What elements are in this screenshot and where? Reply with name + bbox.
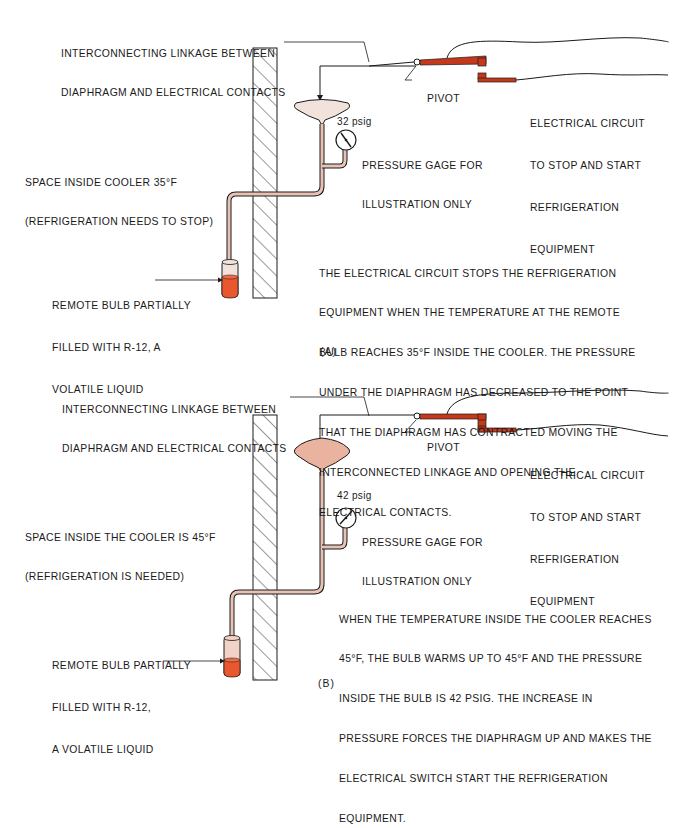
description-line: ELECTRICAL SWITCH START THE REFRIGERATIO…	[339, 772, 652, 785]
gauge-reading-a: 32 psig	[337, 115, 372, 128]
circuit-label-line: TO STOP AND START	[530, 159, 645, 173]
space-label-line: SPACE INSIDE COOLER 35°F	[25, 176, 213, 189]
space-label-line: SPACE INSIDE THE COOLER IS 45°F	[25, 531, 216, 544]
space-label-line: (REFRIGERATION IS NEEDED)	[25, 570, 216, 583]
circuit-label-line: ELECTRICAL CIRCUIT	[530, 117, 645, 131]
circuit-label-line: REFRIGERATION	[530, 553, 645, 567]
linkage-label-line: DIAPHRAGM AND ELECTRICAL CONTACTS	[62, 442, 287, 455]
description-line: INSIDE THE BULB IS 42 psig. THE INCREASE…	[339, 692, 652, 705]
space-label-a: SPACE INSIDE COOLER 35°F (REFRIGERATION …	[25, 150, 213, 241]
circuit-wire-a-bottom	[516, 74, 668, 80]
pivot-label-b: PIVOT	[427, 441, 460, 454]
bulb-label-line: A VOLATILE LIQUID	[52, 743, 191, 757]
linkage-label-line: INTERCONNECTING LINKAGE BETWEEN	[61, 47, 286, 60]
description-line: UNDER THE DIAPHRAGM HAS DECREASED TO THE…	[319, 386, 636, 399]
caption-b: (B)	[318, 678, 335, 689]
description-line: THAT THE DIAPHRAGM HAS CONTRACTED MOVING…	[319, 426, 636, 439]
gauge-label-line: ILLUSTRATION ONLY	[362, 198, 483, 211]
remote-bulb-b	[224, 636, 240, 678]
circuit-label-line: ELECTRICAL CIRCUIT	[530, 469, 645, 483]
bulb-label-line: FILLED WITH R-12,	[52, 701, 191, 715]
gauge-label-line: PRESSURE GAGE FOR	[362, 536, 483, 549]
description-b: WHEN THE TEMPERATURE INSIDE THE COOLER R…	[339, 586, 652, 828]
caption-a: (A)	[320, 346, 337, 357]
circuit-label-line: TO STOP AND START	[530, 511, 645, 525]
linkage-rod-a	[320, 66, 416, 100]
gauge-label-line: PRESSURE GAGE FOR	[362, 159, 483, 172]
gauge-label-a: PRESSURE GAGE FOR ILLUSTRATION ONLY	[362, 133, 483, 224]
description-line: BULB REACHES 35°F INSIDE THE COOLER. THE…	[319, 346, 636, 359]
bulb-label-line: REMOTE BULB PARTIALLY	[52, 299, 191, 313]
circuit-wire-a-top	[447, 38, 668, 58]
pivot-icon	[414, 59, 420, 65]
circuit-label-line: REFRIGERATION	[530, 201, 645, 215]
linkage-label-line: DIAPHRAGM AND ELECTRICAL CONTACTS	[61, 86, 286, 99]
pivot-label-a: PIVOT	[427, 92, 460, 105]
description-line: 45°F, THE BULB WARMS UP TO 45°F AND THE …	[339, 652, 652, 665]
gauge-reading-b: 42 psig	[337, 489, 372, 502]
bulb-label-line: REMOTE BULB PARTIALLY	[52, 659, 191, 673]
description-line: EQUIPMENT.	[339, 812, 652, 825]
pressure-gauge-a	[336, 130, 356, 150]
space-label-line: (REFRIGERATION NEEDS TO STOP)	[25, 215, 213, 228]
description-line: WHEN THE TEMPERATURE INSIDE THE COOLER R…	[339, 613, 652, 626]
bulb-label-line: FILLED WITH R-12, A	[52, 341, 191, 355]
remote-bulb-a	[222, 260, 238, 299]
description-line: PRESSURE FORCES THE DIAPHRAGM UP AND MAK…	[339, 732, 652, 745]
linkage-label-line: INTERCONNECTING LINKAGE BETWEEN	[62, 403, 287, 416]
linkage-label-a: INTERCONNECTING LINKAGE BETWEEN DIAPHRAG…	[61, 21, 286, 112]
description-line: THE ELECTRICAL CIRCUIT STOPS THE REFRIGE…	[319, 267, 636, 280]
electrical-contacts-open	[420, 56, 516, 82]
bulb-label-b: REMOTE BULB PARTIALLY FILLED WITH R-12, …	[52, 631, 191, 771]
description-line: EQUIPMENT WHEN THE TEMPERATURE AT THE RE…	[319, 306, 636, 319]
linkage-label-b: INTERCONNECTING LINKAGE BETWEEN DIAPHRAG…	[62, 377, 287, 468]
space-label-b: SPACE INSIDE THE COOLER IS 45°F (REFRIGE…	[25, 505, 216, 596]
